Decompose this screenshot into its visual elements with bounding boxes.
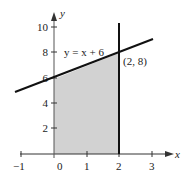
svg-text:2: 2 (43, 122, 49, 134)
y-tick-labels: 2 4 6 8 10 (37, 21, 49, 134)
x-axis-arrow-icon (165, 151, 174, 157)
x-tick-labels: −1 0 1 2 3 (13, 160, 155, 172)
svg-text:4: 4 (43, 97, 49, 109)
line-equation-label: y = x + 6 (64, 46, 104, 58)
svg-text:0: 0 (57, 160, 63, 172)
x-axis-label: x (174, 148, 180, 160)
svg-text:1: 1 (84, 160, 90, 172)
svg-text:3: 3 (149, 160, 155, 172)
chart: x y −1 0 1 2 3 2 4 6 8 10 y = x + 6 (2, … (0, 0, 185, 175)
svg-text:8: 8 (43, 46, 49, 58)
y-axis-label: y (59, 7, 65, 19)
y-axis-arrow-icon (51, 12, 57, 21)
svg-text:2: 2 (116, 160, 122, 172)
shaded-region (54, 53, 119, 154)
svg-text:10: 10 (37, 21, 49, 33)
intersection-point-label: (2, 8) (123, 55, 147, 68)
svg-text:6: 6 (43, 72, 49, 84)
svg-text:−1: −1 (13, 160, 25, 172)
